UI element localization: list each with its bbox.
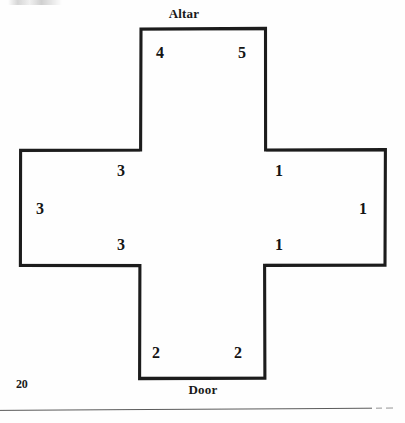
cross-plan-outline — [0, 0, 405, 423]
page-number: 20 — [16, 378, 27, 390]
segment-label-right-arm-bottom: 1 — [275, 237, 283, 253]
figure-page: Altar Door 4 5 3 3 3 1 1 1 2 2 20 — [0, 0, 405, 423]
altar-caption: Altar — [169, 7, 200, 20]
segment-label-right-arm-end: 1 — [359, 201, 367, 217]
segment-label-top-arm-right: 5 — [238, 45, 246, 61]
segment-label-right-arm-top: 1 — [275, 163, 283, 179]
segment-label-bottom-arm-left: 2 — [152, 345, 160, 361]
segment-label-bottom-arm-right: 2 — [234, 345, 242, 361]
segment-label-left-arm-end: 3 — [36, 201, 44, 217]
door-caption: Door — [189, 383, 218, 396]
segment-label-left-arm-top: 3 — [117, 163, 125, 179]
segment-label-top-arm-left: 4 — [156, 45, 164, 61]
segment-label-left-arm-bottom: 3 — [117, 237, 125, 253]
